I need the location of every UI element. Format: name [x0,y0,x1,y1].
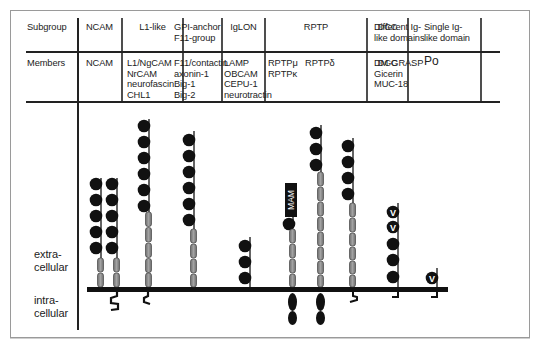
molecule-po: V [426,268,439,297]
svg-text:V: V [429,274,435,284]
diagram-canvas: MAM V [0,0,540,353]
molecule-dm-grasp: V V [387,203,400,297]
members-different-ig: DM-GRASP Gicerin MUC-18 [374,58,423,90]
molecule-ncam-a [90,178,104,287]
row-header-subgroup: Subgroup [27,22,67,33]
subgroup-iglon: IgLON [222,22,265,33]
subgroup-gpi-anchor: GPI-anchor F11-group [174,22,221,43]
members-gpi-anchor: F11/contactin axonin-1 Big-1 Big-2 [174,58,228,100]
membrane-line [87,287,448,292]
members-l1-like: L1/NgCAM NrCAM neurofascin CHL1 [127,58,174,100]
molecule-dcc [342,138,357,302]
subgroup-ncam: NCAM [86,22,113,33]
label-intracellular: intra- cellular [34,294,68,320]
molecule-iglon [239,237,252,287]
mam-label: MAM [286,190,296,210]
svg-text:V: V [390,223,396,233]
members-rptp: RPTPμ RPTPδ RPTPκ [268,58,335,79]
subgroup-rptp: RPTP [265,22,367,33]
members-ncam: NCAM [86,58,113,69]
subgroup-different-ig: Different Ig- like domains [374,22,424,43]
molecule-rptp-mam: MAM [283,183,297,325]
members-iglon: LAMP OBCAM CEPU-1 neurotractin [224,58,272,100]
row-header-members: Members [27,58,65,69]
molecule-f11 [183,131,197,287]
label-extracellular: extra- cellular [34,248,68,274]
members-single-ig: Po [424,56,438,67]
molecule-rptp-delta [310,125,325,325]
subgroup-single-ig: Single Ig- like domain [424,22,470,43]
molecule-l1 [138,119,152,304]
svg-text:V: V [390,208,396,218]
